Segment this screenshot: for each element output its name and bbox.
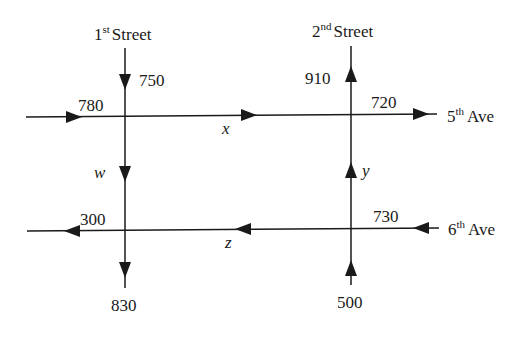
sixth-ave-label: 6thAve: [448, 218, 495, 239]
variable-x: x: [221, 119, 230, 138]
arrow-up-icon: [345, 162, 357, 178]
flow-910: 910: [305, 69, 331, 88]
arrow-down-icon: [119, 166, 131, 182]
arrow-left-icon: [413, 222, 429, 234]
arrow-down-icon: [119, 74, 131, 90]
arrow-up-icon: [345, 66, 357, 82]
flow-750: 750: [139, 71, 165, 90]
first-street-label: 1stStreet: [94, 23, 152, 44]
variable-w: w: [94, 163, 106, 182]
variable-z: z: [224, 233, 232, 252]
arrow-right-icon: [241, 109, 257, 121]
arrow-right-icon: [413, 108, 429, 120]
second-street-label: 2ndStreet: [312, 20, 373, 41]
arrow-left-icon: [235, 223, 251, 235]
flow-830: 830: [111, 296, 137, 315]
flow-720: 720: [371, 93, 397, 112]
variable-y: y: [360, 161, 370, 180]
flow-730: 730: [373, 207, 399, 226]
flow-300: 300: [80, 210, 106, 229]
traffic-network-diagram: 1stStreet 2ndStreet 5thAve 6thAve 750 78…: [0, 0, 532, 337]
arrow-up-icon: [345, 260, 357, 276]
arrow-left-icon: [64, 225, 80, 237]
fifth-ave-label: 5thAve: [447, 105, 494, 126]
flow-780: 780: [78, 96, 104, 115]
arrow-down-icon: [119, 262, 131, 278]
flow-500: 500: [337, 293, 363, 312]
